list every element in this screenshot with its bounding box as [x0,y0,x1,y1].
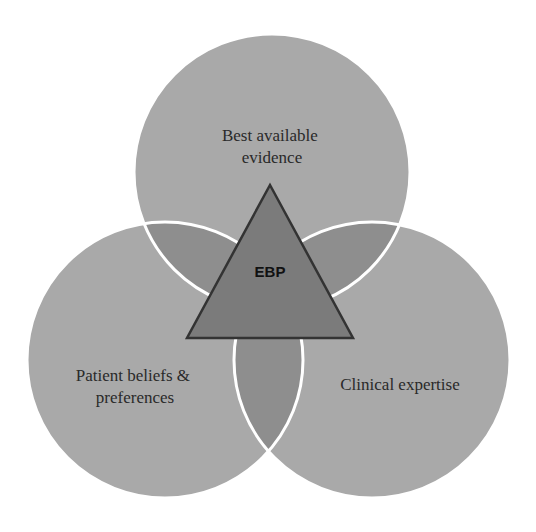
label-evidence-line-2: evidence [242,148,302,167]
label-clinical-line-1: Clinical expertise [340,375,459,394]
label-evidence-line-1: Best available [222,126,318,145]
label-ebp: EBP [255,263,286,280]
label-clinical-expertise: Clinical expertise [340,375,459,394]
label-patient-line-1: Patient beliefs & [76,366,190,385]
label-patient-line-2: preferences [96,388,174,407]
ebp-venn-diagram: Best available evidence Patient beliefs … [0,0,536,532]
